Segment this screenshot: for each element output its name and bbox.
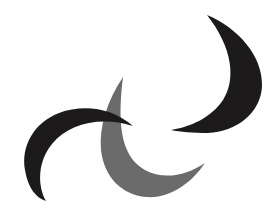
artboard	[0, 0, 270, 222]
crescent-moons-illustration	[0, 0, 270, 222]
